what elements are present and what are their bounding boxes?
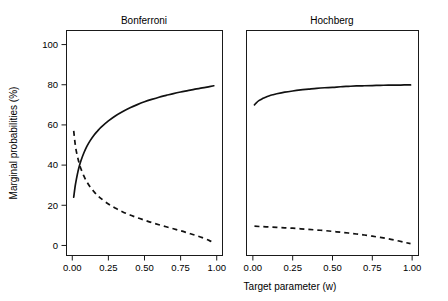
- two-panel-line-chart: Bonferroni Hochberg 020406080100 0.000.2…: [0, 0, 448, 301]
- x-axis-title: Target parameter (w): [244, 281, 337, 292]
- x-tick-label: 0.75: [171, 262, 190, 273]
- x-tick-label: 0.50: [135, 262, 154, 273]
- x-tick-label: 0.25: [283, 262, 302, 273]
- y-tick-label: 100: [42, 39, 58, 50]
- panel-title-hochberg: Hochberg: [310, 15, 353, 26]
- x-tick-label: 0.25: [99, 262, 118, 273]
- x-tick-label: 0.00: [63, 262, 82, 273]
- y-tick-label: 20: [47, 200, 58, 211]
- x-tick-label: 0.50: [323, 262, 342, 273]
- x-tick-label: 0.00: [244, 262, 263, 273]
- x-tick-label: 1.00: [403, 262, 422, 273]
- y-tick-label: 80: [47, 79, 58, 90]
- y-axis-title: Marginal probabilities (%): [8, 87, 19, 200]
- panel-title-bonferroni: Bonferroni: [121, 15, 167, 26]
- y-tick-label: 60: [47, 119, 58, 130]
- y-tick-label: 40: [47, 159, 58, 170]
- x-tick-label: 0.75: [363, 262, 382, 273]
- x-tick-label: 1.00: [207, 262, 226, 273]
- y-tick-label: 0: [53, 240, 58, 251]
- chart-figure: Bonferroni Hochberg 020406080100 0.000.2…: [0, 0, 448, 301]
